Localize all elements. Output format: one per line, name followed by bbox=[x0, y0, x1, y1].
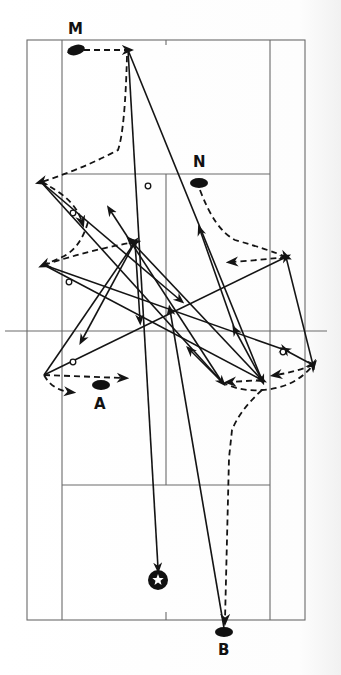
rally-diagram: MNAB bbox=[0, 0, 341, 675]
movement-path bbox=[200, 190, 286, 257]
player-n-label: N bbox=[193, 153, 206, 171]
hollow-circle-icon bbox=[66, 279, 72, 285]
movement-path bbox=[44, 375, 70, 392]
shot-path bbox=[286, 257, 313, 365]
hollow-circle-icon bbox=[145, 183, 151, 189]
player-b-marker bbox=[215, 627, 233, 637]
hollow-circle-icon bbox=[70, 359, 76, 365]
player-a-marker bbox=[92, 380, 110, 390]
hollow-circle-icon bbox=[280, 349, 286, 355]
player-a-label: A bbox=[94, 395, 106, 413]
movement-path bbox=[225, 390, 262, 620]
shot-path bbox=[44, 242, 135, 375]
shuttle-landing-star-icon bbox=[148, 570, 168, 590]
shot-path bbox=[200, 230, 235, 330]
movement-path bbox=[44, 375, 123, 378]
shot-trajectories bbox=[41, 50, 313, 628]
player-m-label: M bbox=[68, 20, 83, 38]
movement-path bbox=[41, 56, 127, 182]
player-b-label: B bbox=[218, 641, 229, 659]
shot-path bbox=[190, 350, 222, 382]
shot-path bbox=[285, 350, 313, 365]
shot-path bbox=[128, 50, 158, 568]
movement-path bbox=[230, 380, 262, 382]
player-m-marker bbox=[66, 43, 86, 57]
hollow-circle-icon bbox=[70, 210, 76, 216]
player-markers: MNAB bbox=[66, 20, 233, 659]
player-n-marker bbox=[190, 178, 208, 188]
